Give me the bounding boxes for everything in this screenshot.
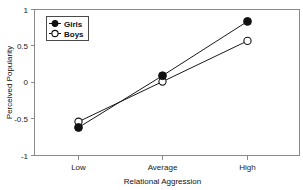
chart-legend: Girls Boys — [47, 17, 89, 41]
y-axis-ticks — [31, 10, 35, 156]
chart-figure: 1 0.5 0 -0.5 -1 Low Average High Relatio… — [0, 0, 303, 190]
legend-marker-girls-filled-circle-icon — [52, 20, 58, 26]
series-girls — [75, 18, 252, 132]
x-axis-ticks — [79, 156, 248, 160]
y-tick-label-neg0_5: -0.5 — [14, 115, 28, 124]
data-point-girls-average — [159, 72, 167, 80]
data-point-boys-high — [244, 37, 251, 44]
y-axis-title: Perceived Popularity — [5, 46, 14, 119]
legend-marker-boys-open-circle-icon — [52, 30, 58, 36]
y-tick-label-0_5: 0.5 — [17, 42, 29, 51]
legend-label-boys: Boys — [64, 30, 84, 39]
series-boys — [75, 37, 251, 125]
y-tick-label-0: 0 — [24, 78, 29, 87]
y-tick-label-1: 1 — [24, 6, 29, 15]
x-axis-tick-labels: Low Average High — [71, 163, 256, 172]
data-point-girls-high — [244, 18, 252, 26]
x-axis-title: Relational Aggression — [124, 177, 201, 186]
x-tick-label-average: Average — [148, 163, 178, 172]
y-tick-label-neg1: -1 — [21, 152, 29, 161]
x-tick-label-low: Low — [71, 163, 86, 172]
line-chart: 1 0.5 0 -0.5 -1 Low Average High Relatio… — [0, 0, 303, 190]
data-point-girls-low — [75, 124, 83, 132]
legend-label-girls: Girls — [64, 20, 83, 29]
x-tick-label-high: High — [239, 163, 255, 172]
y-axis-tick-labels: 1 0.5 0 -0.5 -1 — [14, 6, 28, 161]
